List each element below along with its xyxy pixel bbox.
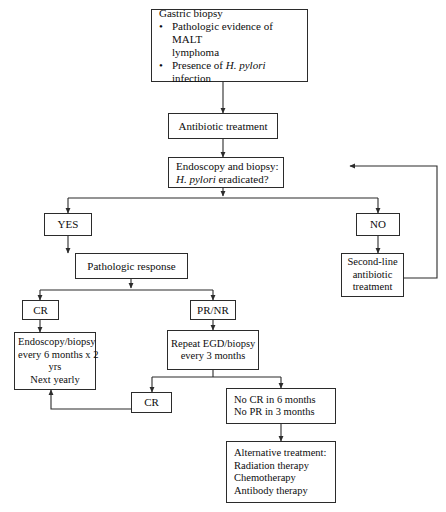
second-line-row-3: treatment — [345, 281, 400, 294]
bullet-2-pre: Presence of — [172, 59, 226, 71]
surveillance-row-3: yrs — [18, 361, 92, 374]
gastric-biopsy-bullet-2: • Presence of H. pylori infection — [159, 59, 302, 85]
edge-crlower-to-surveillance — [51, 390, 131, 409]
pathologic-response-label: Pathologic response — [79, 260, 184, 273]
node-surveillance: Endoscopy/biopsy every 6 months x 2 yrs … — [14, 332, 96, 390]
bullet-2-italic: H. pylori — [226, 59, 266, 71]
repeat-egd-row-2: every 3 months — [171, 350, 255, 363]
node-second-line-antibiotic: Second-line antibiotic treatment — [341, 253, 404, 297]
node-antibiotic-treatment: Antibiotic treatment — [168, 113, 278, 139]
node-no: NO — [356, 213, 400, 236]
yes-label: YES — [48, 218, 88, 231]
endoscopy-line-2-rest: eradicated? — [216, 173, 269, 185]
node-yes: YES — [44, 213, 92, 236]
surveillance-row-4: Next yearly — [18, 374, 92, 387]
no-response-row-2: No PR in 3 months — [234, 406, 330, 419]
node-cr-lower: CR — [131, 392, 172, 413]
gastric-biopsy-heading: Gastric biopsy — [159, 7, 302, 20]
flowchart-canvas: Gastric biopsy • Pathologic evidence of … — [0, 0, 446, 512]
gastric-biopsy-bullet-1: • Pathologic evidence of MALT lymphoma — [159, 20, 302, 59]
surveillance-row-2: every 6 months x 2 — [18, 349, 92, 362]
pr-nr-label: PR/NR — [194, 304, 232, 317]
node-gastric-biopsy: Gastric biopsy • Pathologic evidence of … — [151, 9, 308, 82]
bullet-1-line-1: Pathologic evidence of MALT — [172, 20, 273, 45]
no-label: NO — [360, 218, 396, 231]
antibiotic-treatment-label: Antibiotic treatment — [172, 120, 274, 133]
endoscopy-line-1: Endoscopy and biopsy: — [176, 160, 278, 173]
node-repeat-egd: Repeat EGD/biopsy every 3 months — [167, 330, 259, 370]
surveillance-row-1: Endoscopy/biopsy — [18, 336, 92, 349]
node-pr-nr: PR/NR — [190, 300, 236, 320]
node-pathologic-response: Pathologic response — [75, 253, 188, 279]
node-alternative-treatment: Alternative treatment: Radiation therapy… — [226, 441, 336, 503]
bullet-2-text: Presence of H. pylori infection — [172, 59, 302, 85]
second-line-row-2: antibiotic — [345, 269, 400, 282]
alternative-row-2: Radiation therapy — [234, 460, 330, 473]
node-no-response: No CR in 6 months No PR in 3 months — [226, 388, 336, 424]
no-response-row-1: No CR in 6 months — [234, 394, 330, 407]
bullet-2-post: infection — [172, 72, 211, 84]
endoscopy-italic-organism: H. pylori — [176, 173, 216, 185]
repeat-egd-row-1: Repeat EGD/biopsy — [171, 338, 255, 351]
endoscopy-line-2: H. pylori eradicated? — [176, 173, 278, 186]
bullet-1-text: Pathologic evidence of MALT lymphoma — [172, 20, 302, 59]
second-line-row-1: Second-line — [345, 256, 400, 269]
node-endoscopy-biopsy: Endoscopy and biopsy: H. pylori eradicat… — [168, 157, 284, 188]
alternative-row-1: Alternative treatment: — [234, 447, 330, 460]
alternative-row-3: Chemotherapy — [234, 472, 330, 485]
cr-lower-label: CR — [135, 396, 168, 409]
bullet-icon: • — [159, 59, 172, 72]
bullet-1-line-2: lymphoma — [172, 46, 219, 58]
cr-upper-label: CR — [26, 304, 55, 317]
node-cr-upper: CR — [22, 300, 59, 320]
alternative-row-4: Antibody therapy — [234, 485, 330, 498]
bullet-icon: • — [159, 20, 172, 33]
